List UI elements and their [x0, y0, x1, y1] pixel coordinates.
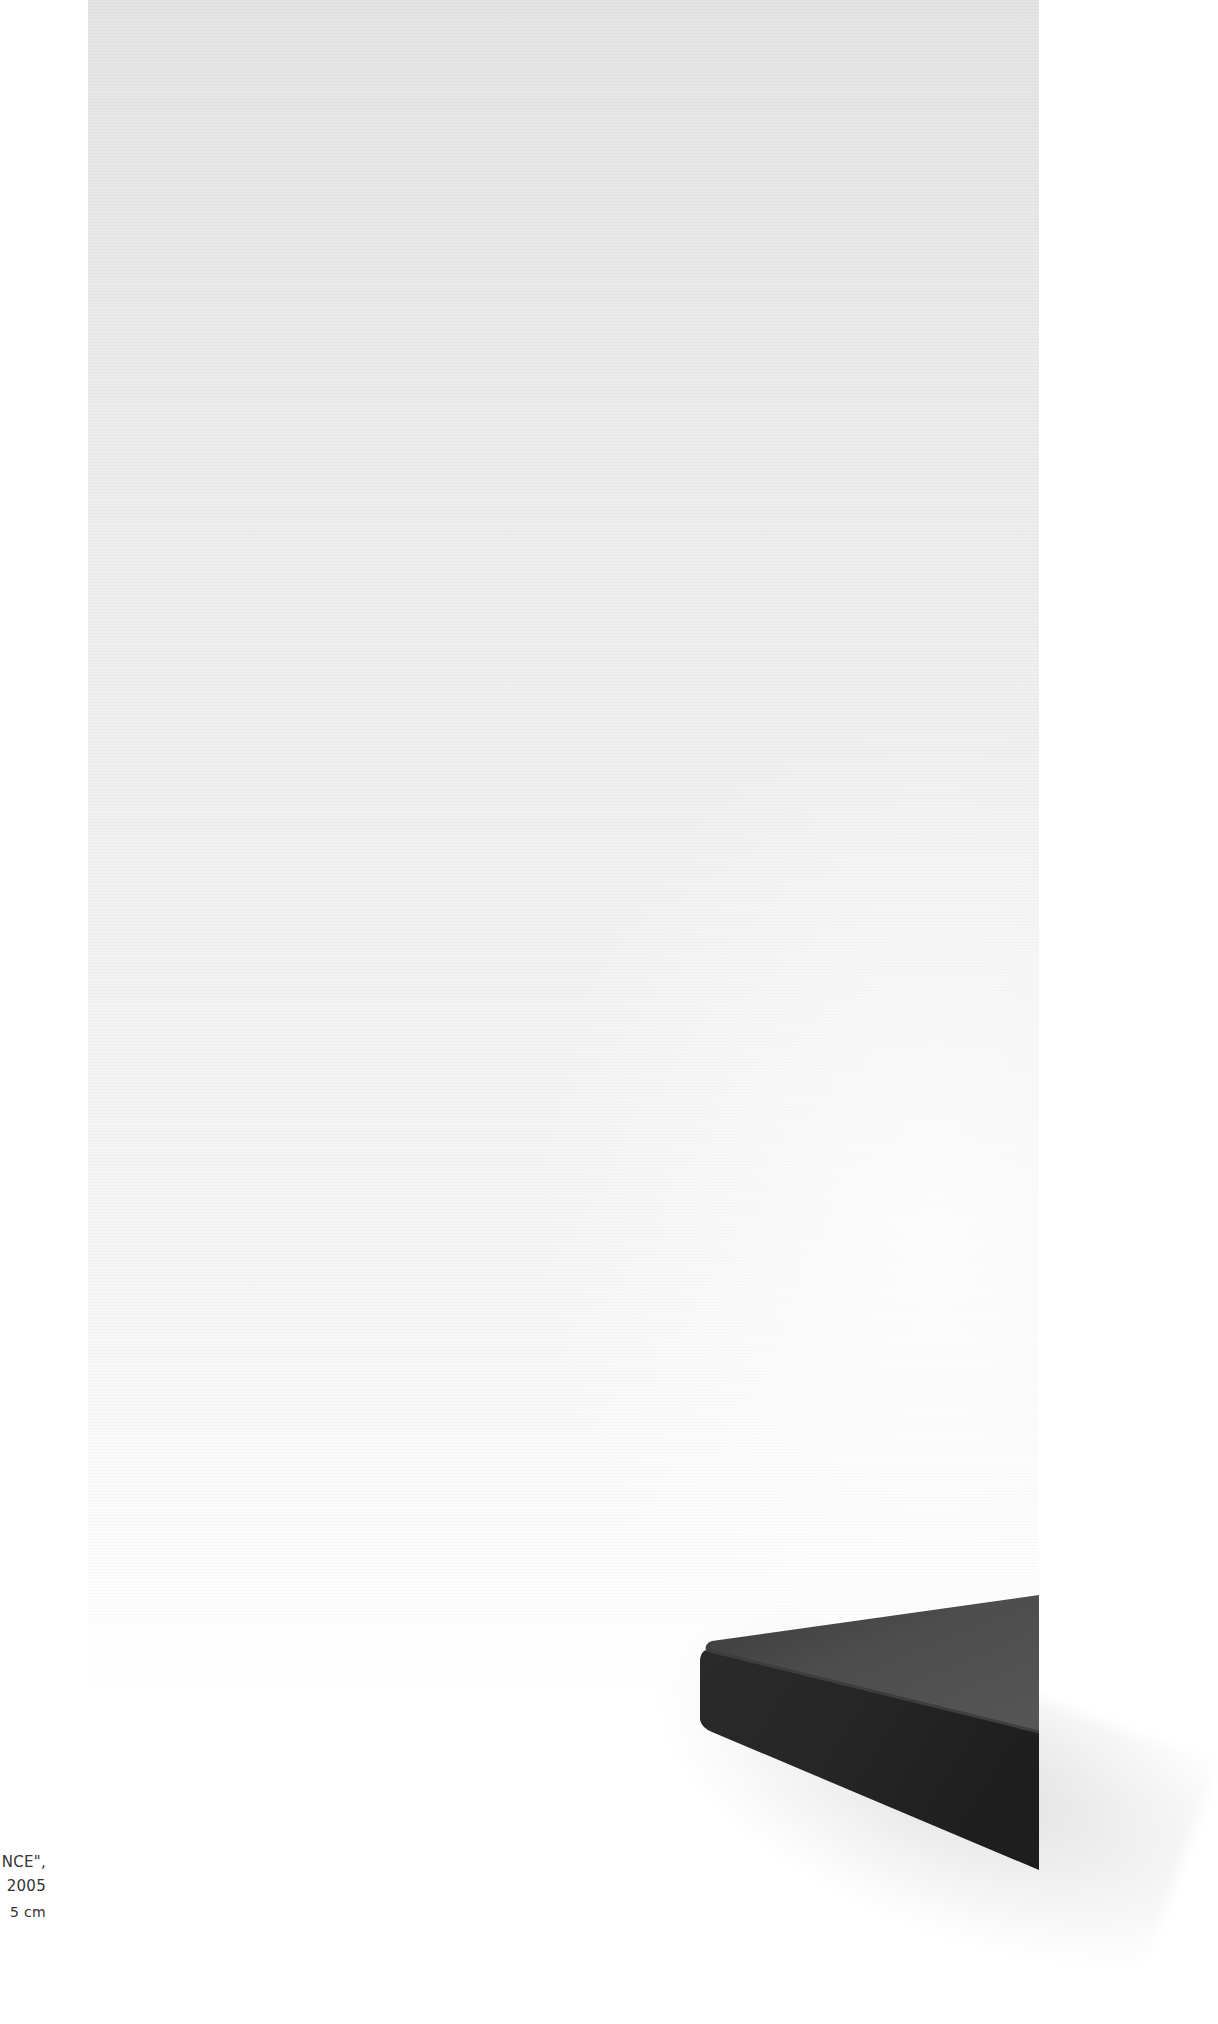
artwork-caption: NCE", 2005 5 cm [0, 1850, 46, 1924]
caption-title: NCE", [0, 1850, 46, 1874]
caption-dimensions: 5 cm [0, 1900, 46, 1924]
artwork-photo [88, 0, 1039, 1720]
caption-year: 2005 [0, 1874, 46, 1898]
backdrop-highlight [519, 700, 1039, 1600]
